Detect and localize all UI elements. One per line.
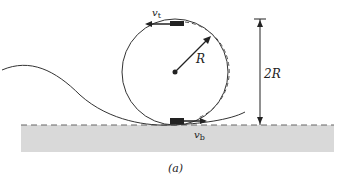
car-bottom: [170, 118, 184, 124]
height-arrowhead-top: [257, 20, 263, 27]
approach-track: [2, 65, 245, 125]
ground: [21, 125, 334, 152]
loop-diagram: R vt vb 2R (a): [0, 0, 350, 181]
radius-label: R: [195, 52, 205, 66]
car-path-dashed: [185, 22, 229, 118]
velocity-top-label: vt: [152, 7, 162, 20]
car-top: [170, 21, 184, 26]
figure-caption: (a): [168, 162, 183, 175]
height-arrowhead-bottom: [257, 117, 263, 124]
height-label: 2R: [263, 67, 281, 81]
